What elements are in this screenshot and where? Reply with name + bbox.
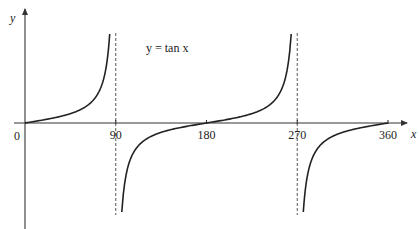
y-axis-label: y bbox=[9, 11, 16, 25]
x-tick-label-270: 270 bbox=[288, 128, 306, 142]
tan-curve-branch-3 bbox=[303, 123, 388, 212]
x-tick-label-180: 180 bbox=[198, 128, 216, 142]
x-axis-label: x bbox=[410, 127, 417, 141]
tan-graph: 90180270360 y x 0 y = tan x bbox=[0, 0, 419, 229]
function-annotation: y = tan x bbox=[146, 41, 188, 55]
origin-label: 0 bbox=[14, 129, 20, 143]
x-tick-label-360: 360 bbox=[379, 128, 397, 142]
tan-curve-branch-1 bbox=[25, 34, 110, 123]
x-tick-label-90: 90 bbox=[110, 128, 122, 142]
